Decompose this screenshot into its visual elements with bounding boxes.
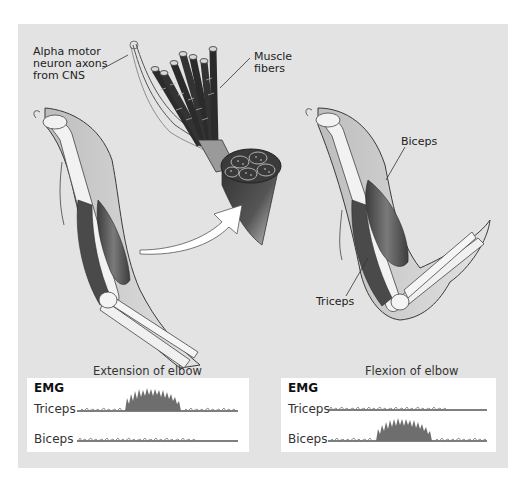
biceps-label: Biceps	[401, 136, 437, 148]
emg-trace-extension-biceps	[77, 438, 238, 441]
flexed-arm-illustration	[306, 108, 490, 320]
emg-trace-extension-triceps	[77, 388, 238, 411]
extension-caption: Extension of elbow	[93, 364, 202, 378]
zoom-arrow	[140, 205, 242, 254]
flexion-caption: Flexion of elbow	[365, 364, 458, 378]
emg-trace-flexion-triceps	[328, 407, 487, 410]
alpha-motor-line-3: from CNS	[33, 70, 108, 82]
alpha-motor-neuron-label: Alpha motor neuron axons from CNS	[33, 46, 108, 82]
emg-traces	[77, 388, 487, 441]
muscle-fibers-line-2: fibers	[254, 63, 292, 75]
triceps-label: Triceps	[316, 296, 354, 308]
extended-arm-illustration	[34, 108, 200, 368]
muscle-fibers-label: Muscle fibers	[254, 51, 292, 75]
emg-trace-flexion-biceps	[328, 418, 487, 441]
